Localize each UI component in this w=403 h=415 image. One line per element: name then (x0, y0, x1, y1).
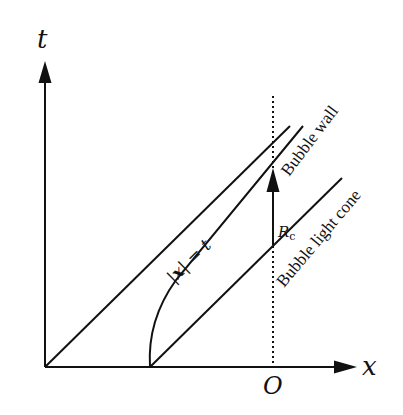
x-axis-arrowhead-icon (334, 361, 357, 374)
x-axis (45, 361, 357, 374)
bubble-wall-label: Bubble wall (277, 102, 342, 180)
t-axis (39, 61, 52, 367)
spacetime-diagram: t x O |x| = t Bubble wall Bubble light c… (0, 0, 403, 415)
origin-o-label: O (263, 372, 283, 400)
t-axis-arrowhead-icon (39, 61, 52, 83)
rc-arrowhead-icon (267, 168, 280, 192)
origin-light-cone-line (45, 126, 290, 367)
x-axis-label: x (362, 351, 377, 381)
t-axis-label: t (37, 24, 48, 54)
bubble-wall-curve (150, 126, 303, 367)
